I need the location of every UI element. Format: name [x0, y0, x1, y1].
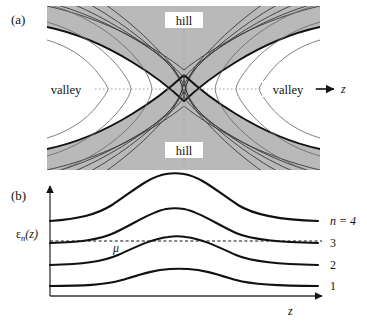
valley-label-right-text: valley	[273, 83, 304, 97]
hill-label-top-text: hill	[176, 14, 193, 28]
panel-b-plot: μ n = 4 3 2 1 εn(z) z	[16, 173, 356, 318]
hill-label-top: hill	[165, 12, 203, 28]
valley-label-left: valley	[40, 81, 93, 97]
panel-b-y-axis-label: εn(z)	[16, 227, 38, 243]
valley-label-left-text: valley	[51, 83, 82, 97]
hill-label-bottom-text: hill	[176, 144, 193, 158]
valley-label-right: valley	[262, 81, 315, 97]
y-axis-tail: (z)	[25, 227, 38, 241]
panel-a-label: (a)	[11, 12, 25, 28]
energy-curve-n3	[50, 208, 318, 243]
chemical-potential-label: μ	[112, 241, 119, 255]
panel-a-z-label: z	[340, 82, 346, 96]
energy-curve-n1	[50, 269, 318, 286]
figure-canvas: z hill hill valley valley μ	[0, 0, 367, 324]
curve-label-n4: n = 4	[330, 214, 356, 228]
energy-curve-n4	[50, 173, 318, 221]
figure-root: (a) (b)	[0, 0, 367, 324]
curve-label-n3: 3	[330, 236, 336, 250]
panel-b-x-axis-label: z	[287, 304, 293, 318]
panel-b-label: (b)	[11, 188, 26, 204]
curve-label-n2: 2	[330, 258, 336, 272]
hill-label-bottom: hill	[165, 142, 203, 158]
curve-label-n1: 1	[330, 279, 336, 293]
